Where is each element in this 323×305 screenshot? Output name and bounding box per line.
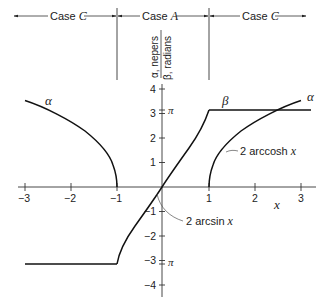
y-axis-label-alpha: α, nepers bbox=[149, 36, 160, 78]
y-axis-labels: α, nepers β, radians bbox=[149, 30, 173, 80]
region-label-case-a: Case A bbox=[142, 9, 179, 23]
x-tick-label: −3 bbox=[18, 192, 30, 204]
arcsin-leader-line bbox=[157, 194, 183, 221]
region-label-case-c-right: Case C bbox=[242, 9, 280, 23]
alpha-label-right: α bbox=[307, 89, 315, 104]
pi-label-positive: π bbox=[168, 104, 174, 116]
x-tick-label: 2 bbox=[252, 192, 258, 204]
curve-alpha-right bbox=[209, 101, 301, 188]
beta-label: β bbox=[221, 93, 229, 108]
y-tick-label: 3 bbox=[150, 107, 156, 119]
y-tick-label: 2 bbox=[150, 132, 156, 144]
x-tick-label: −2 bbox=[64, 192, 76, 204]
x-axis-label: x bbox=[273, 197, 280, 212]
y-tick-label: 4 bbox=[150, 83, 156, 95]
y-tick-label: −2 bbox=[144, 230, 156, 242]
pi-label-negative: π bbox=[168, 256, 174, 268]
alpha-label-left: α bbox=[45, 93, 53, 108]
arccosh-leader-line bbox=[226, 150, 238, 152]
y-tick-label: −4 bbox=[144, 279, 156, 291]
y-axis-label-beta: β, radians bbox=[162, 36, 173, 80]
y-tick-label: −3 bbox=[144, 254, 156, 266]
curve-alpha-left bbox=[25, 101, 117, 188]
region-label-case-c-left: Case C bbox=[50, 9, 88, 23]
region-header: Case C Case A Case C bbox=[14, 8, 306, 80]
x-tick-label: 3 bbox=[298, 192, 304, 204]
arccosh-label: 2 arccosh x bbox=[240, 144, 297, 158]
arcsin-label: 2 arcsin x bbox=[186, 214, 234, 228]
axes: −3 −2 −1 1 2 3 x 1 2 3 4 π −1 −2 −3 −4 π bbox=[18, 83, 316, 297]
y-tick-label: 1 bbox=[150, 156, 156, 168]
curves bbox=[25, 101, 311, 265]
x-tick-label: 1 bbox=[206, 192, 212, 204]
x-tick-label: −1 bbox=[110, 192, 122, 204]
diagram-canvas: Case C Case A Case C α, nepers β, radian… bbox=[0, 0, 323, 305]
